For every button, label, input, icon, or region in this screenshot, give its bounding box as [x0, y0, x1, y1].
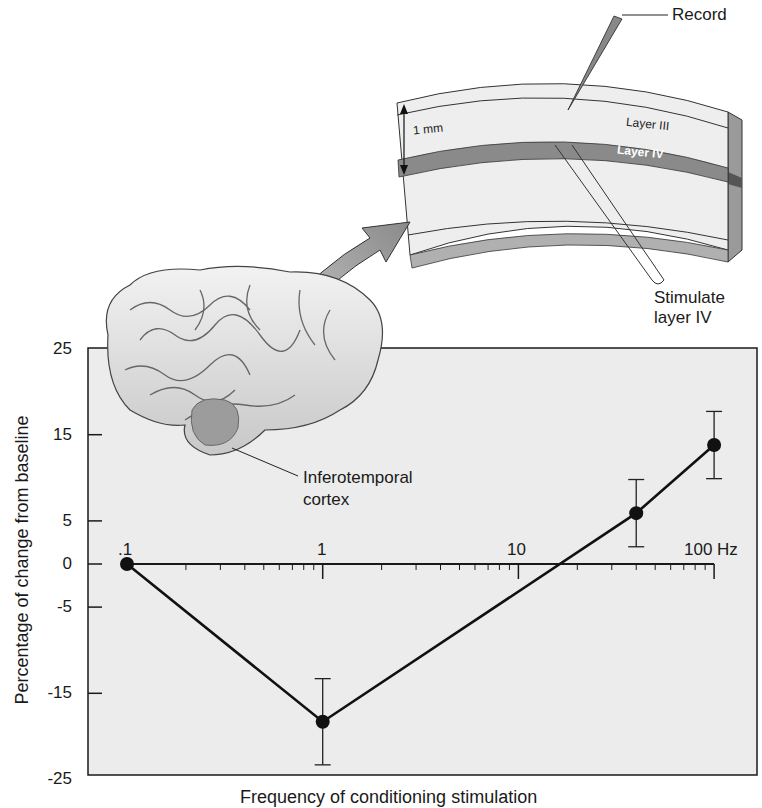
x-tick-1: 1	[317, 540, 326, 560]
stimulate-label-line2: layer IV	[654, 308, 712, 328]
x-tick-0.1: .1	[118, 540, 132, 560]
stimulate-label: Stimulate	[654, 288, 725, 308]
y-tick-minus5: -5	[32, 597, 72, 617]
data-point	[629, 506, 643, 520]
x-tick-100hz: 100 Hz	[684, 540, 738, 560]
inferotemporal-region	[191, 399, 239, 446]
y-tick-minus15: -15	[32, 683, 72, 703]
y-tick-15: 15	[32, 425, 72, 445]
record-label: Record	[672, 5, 727, 25]
y-tick-minus25: -25	[32, 769, 72, 789]
x-tick-10: 10	[507, 540, 526, 560]
y-tick-25: 25	[32, 339, 72, 359]
inferotemporal-label: Inferotemporal	[303, 468, 413, 488]
x-axis-label: Frequency of conditioning stimulation	[240, 787, 537, 808]
y-tick-0: 0	[32, 554, 72, 574]
data-point	[316, 715, 330, 729]
y-axis-label: Percentage of change from baseline	[12, 415, 33, 704]
inferotemporal-label-line2: cortex	[303, 490, 349, 510]
y-tick-5: 5	[32, 511, 72, 531]
data-point	[707, 438, 721, 452]
